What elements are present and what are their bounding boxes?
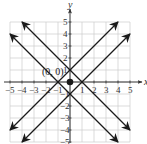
origin-point	[67, 79, 74, 86]
y-tick-label: 2	[63, 53, 68, 63]
x-tick-label: 4	[116, 85, 121, 95]
y-tick-label: −5	[60, 137, 70, 144]
x-tick-label: −5	[5, 85, 15, 95]
y-tick-label: 3	[63, 41, 68, 51]
point-label: (0, 0)	[42, 66, 64, 78]
coordinate-plane: xy −5−4−3−2−112345−5−4−3−2−112345 (0, 0)	[0, 0, 147, 144]
plot-line	[22, 22, 130, 130]
y-tick-label: −1	[60, 89, 70, 99]
x-tick-label: −3	[29, 85, 39, 95]
y-tick-label: 5	[63, 17, 68, 27]
y-tick-label: 4	[63, 29, 68, 39]
x-tick-label: 3	[104, 85, 109, 95]
axes: xy	[4, 0, 147, 143]
y-axis-label: y	[67, 0, 73, 10]
x-tick-label: 1	[80, 85, 85, 95]
x-tick-label: 5	[128, 85, 133, 95]
y-tick-label: −4	[60, 125, 70, 135]
y-tick-label: −3	[60, 113, 70, 123]
x-axis-label: x	[143, 76, 147, 87]
x-tick-label: −4	[17, 85, 27, 95]
